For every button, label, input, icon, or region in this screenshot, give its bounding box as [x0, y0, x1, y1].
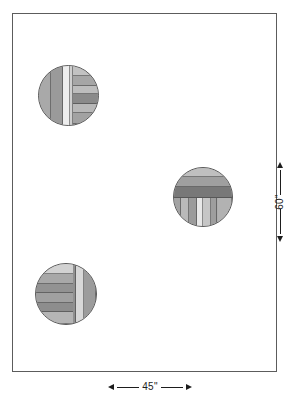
- dimension-line-top: [280, 170, 281, 195]
- hatch-band: [84, 264, 96, 324]
- hatch-band: [203, 198, 211, 226]
- circle-bottom-left: [35, 263, 97, 325]
- dimension-horizontal: 45": [108, 378, 192, 396]
- circle-top-left: [38, 65, 99, 126]
- dimension-line-left: [117, 387, 139, 388]
- hatch-band: [181, 198, 189, 226]
- hatch-band: [63, 66, 70, 125]
- hatch-band: [36, 264, 73, 274]
- hatch-band: [36, 293, 73, 303]
- dimension-vertical: 60": [270, 162, 290, 242]
- arrow-up-icon: [277, 162, 283, 168]
- hatch-band: [73, 66, 98, 77]
- hatch-band: [36, 303, 73, 312]
- hatch-band: [174, 198, 181, 226]
- hatch-band: [189, 198, 197, 226]
- hatch-band: [36, 284, 73, 294]
- dimension-vertical-label: 60": [275, 194, 285, 210]
- hatch-band: [174, 168, 232, 177]
- hatch-band: [174, 187, 232, 197]
- hatch-band: [36, 312, 73, 324]
- arrow-left-icon: [108, 384, 114, 390]
- hatch-band: [39, 66, 52, 125]
- hatch-band: [218, 198, 233, 226]
- hatch-band: [76, 264, 84, 324]
- hatch-band: [51, 66, 63, 125]
- hatch-band: [174, 177, 232, 187]
- hatch-band: [73, 113, 98, 125]
- arrow-right-icon: [186, 384, 192, 390]
- hatch-band: [73, 76, 98, 85]
- hatch-band: [73, 86, 98, 95]
- figure-root: 45" 60": [0, 0, 301, 402]
- hatch-band: [73, 94, 98, 104]
- dimension-line-bottom: [280, 209, 281, 234]
- arrow-down-icon: [277, 236, 283, 242]
- hatch-band: [73, 104, 98, 112]
- hatch-band: [36, 274, 73, 284]
- dimension-line-right: [161, 387, 183, 388]
- hatch-band: [211, 198, 218, 226]
- dimension-horizontal-label: 45": [142, 382, 158, 392]
- circle-middle-right: [173, 167, 233, 227]
